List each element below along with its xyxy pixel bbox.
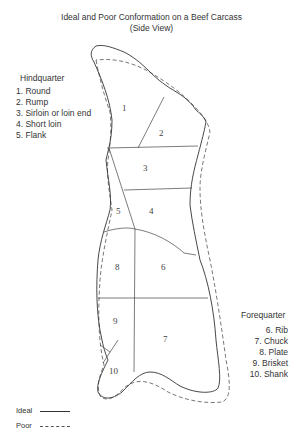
- line-flank-diagonal: [109, 148, 135, 229]
- line-round-rump: [138, 97, 164, 148]
- region-label-3: 3: [143, 163, 148, 173]
- poor-outline: [96, 59, 229, 402]
- key-poor-label: Poor: [16, 421, 32, 430]
- key-ideal-label: Ideal: [16, 406, 32, 415]
- line-sirloin-shortloin: [124, 188, 192, 190]
- region-label-9: 9: [113, 316, 118, 326]
- region-label-10: 10: [109, 366, 119, 376]
- region-label-2: 2: [159, 128, 164, 138]
- ideal-outline: [91, 45, 219, 398]
- region-label-6: 6: [161, 262, 166, 272]
- carcass-diagram: 1 2 3 5 4 8 6 9 7 10: [0, 0, 303, 441]
- dashed-line-swatch-icon: [40, 426, 70, 427]
- key-ideal: Ideal: [16, 406, 70, 415]
- key-poor: Poor: [16, 421, 70, 430]
- region-label-4: 4: [149, 206, 154, 216]
- line-flank-plate: [104, 228, 196, 255]
- region-label-7: 7: [163, 334, 168, 344]
- region-label-5: 5: [116, 206, 121, 216]
- region-label-8: 8: [115, 262, 120, 272]
- line-round-sirloin: [107, 146, 198, 148]
- region-label-1: 1: [122, 103, 127, 113]
- line-plate-rib-vertical: [134, 229, 135, 372]
- solid-line-swatch-icon: [40, 411, 70, 412]
